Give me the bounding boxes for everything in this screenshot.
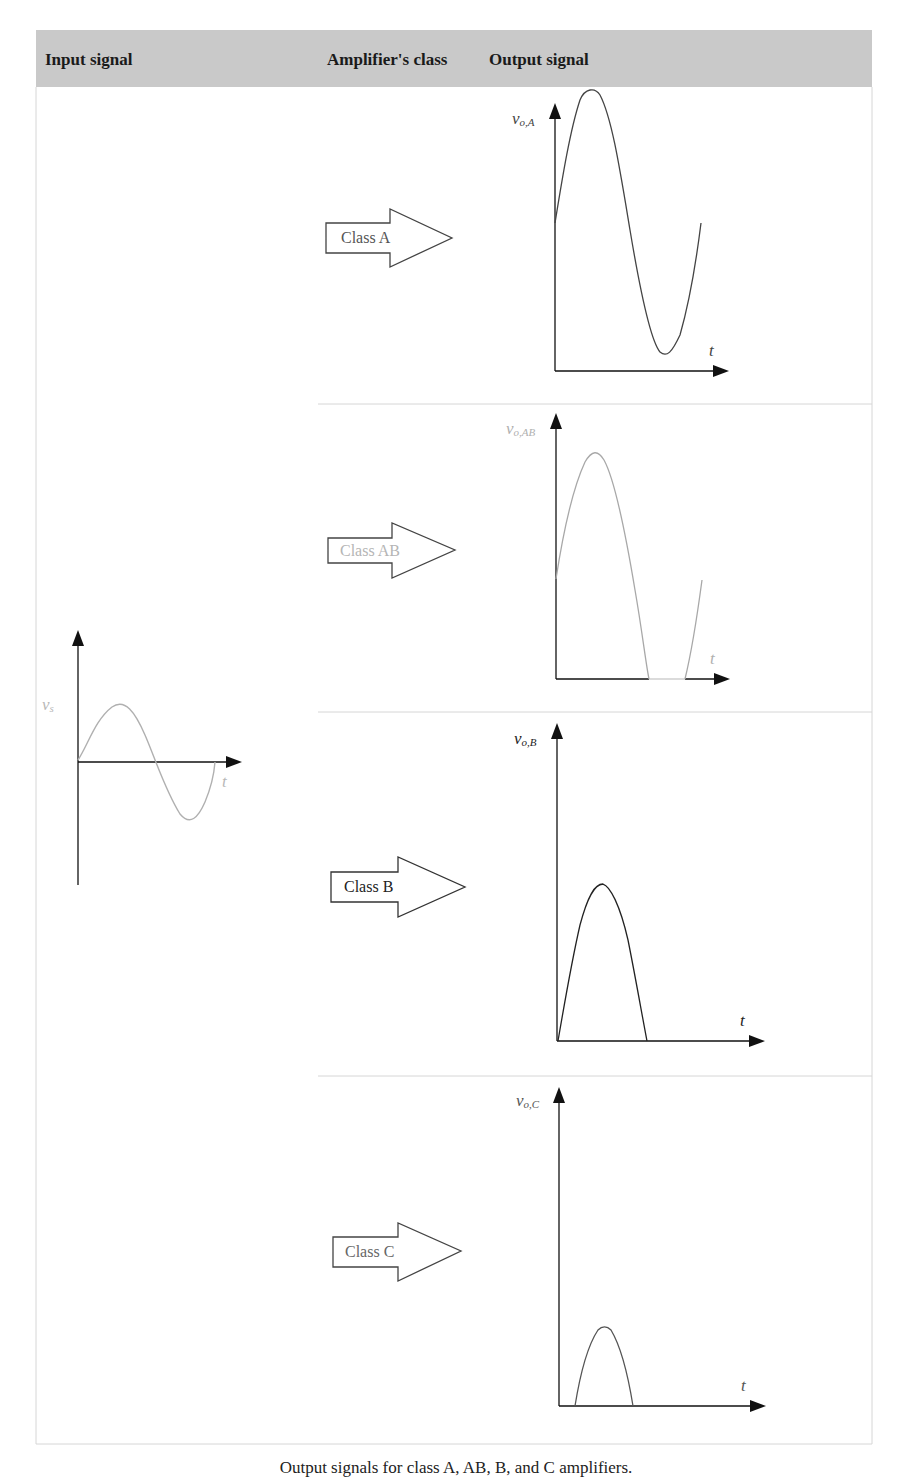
class-ab-waveform xyxy=(556,453,649,679)
input-x-axis-label: t xyxy=(222,773,227,790)
class-c-row xyxy=(333,1087,766,1412)
class-a-waveform xyxy=(555,90,701,354)
class-ab-label: Class AB xyxy=(340,536,400,566)
class-a-y-axis-label: vo,A xyxy=(512,110,535,128)
class-b-label: Class B xyxy=(344,872,393,902)
arrowhead-icon xyxy=(226,756,242,768)
class-b-row xyxy=(331,723,765,1047)
class-c-y-axis-label: vo,C xyxy=(516,1092,539,1110)
class-ab-waveform-second xyxy=(685,580,702,679)
arrowhead-icon xyxy=(714,673,730,685)
input-y-axis-label: vs xyxy=(42,696,54,714)
arrowhead-icon xyxy=(750,1400,766,1412)
arrowhead-icon xyxy=(553,1087,565,1103)
arrowhead-icon xyxy=(72,630,84,646)
class-c-waveform xyxy=(575,1327,633,1406)
figure-caption: Output signals for class A, AB, B, and C… xyxy=(0,1458,912,1478)
arrowhead-icon xyxy=(550,413,562,429)
class-c-label: Class C xyxy=(345,1237,394,1267)
arrowhead-icon xyxy=(749,1035,765,1047)
arrowhead-icon xyxy=(713,365,729,377)
input-signal-plot xyxy=(72,630,242,885)
class-c-x-axis-label: t xyxy=(741,1377,746,1394)
class-b-y-axis-label: vo,B xyxy=(514,730,537,748)
class-ab-y-axis-label: vo,AB xyxy=(506,420,535,438)
class-b-x-axis-label: t xyxy=(740,1012,745,1029)
table-borders xyxy=(36,87,872,1444)
arrowhead-icon xyxy=(549,103,561,119)
class-a-label: Class A xyxy=(341,223,390,253)
class-a-x-axis-label: t xyxy=(709,342,714,359)
class-ab-x-axis-label: t xyxy=(710,650,715,667)
class-b-waveform xyxy=(558,884,647,1041)
arrowhead-icon xyxy=(551,723,563,739)
